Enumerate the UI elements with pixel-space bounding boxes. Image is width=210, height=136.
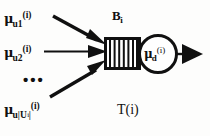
- ellipsis-dots: •••: [23, 72, 45, 87]
- arrival-arrow-n: [50, 60, 106, 97]
- mu-superscript: (i): [23, 44, 32, 54]
- mu-subscript: u2: [13, 53, 23, 63]
- label-arrival-rate-1: μu1(i): [4, 10, 33, 26]
- label-departure-rate: μd(i): [144, 45, 166, 61]
- label-arrival-rate-2: μu2(i): [4, 44, 33, 60]
- departure-arrow: [176, 44, 203, 64]
- buffer-subscript: i: [120, 15, 123, 25]
- mu-subscript: u1: [13, 19, 23, 29]
- mu-superscript: (i): [23, 10, 32, 20]
- mu-superscript: (i): [31, 101, 40, 111]
- mu-superscript: (i): [157, 45, 166, 55]
- arrival-arrow-2: [44, 45, 107, 58]
- arrival-arrow-1: [53, 16, 107, 45]
- mu-subscript-prefix: u|U: [13, 110, 27, 120]
- queueing-node-diagram: μu1(i) μu2(i) ••• μu|Ui|(i) Bi μd(i) T(i…: [0, 0, 210, 136]
- buffer-box: [106, 39, 140, 69]
- mu-subscript-suffix: |: [29, 110, 31, 120]
- label-buffer: Bi: [112, 9, 123, 22]
- label-arrival-rate-n: μu|Ui|(i): [4, 101, 41, 117]
- figure-caption: T(i): [117, 103, 139, 117]
